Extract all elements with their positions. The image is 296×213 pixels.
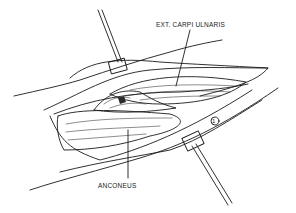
- limb-outline-upper2: [70, 60, 268, 78]
- retractor-bottom-handle: [192, 146, 228, 205]
- label-anconeus: ANCONEUS: [98, 182, 136, 189]
- label-ext-carpi-ulnaris: EXT. CARPI ULNARIS: [156, 21, 225, 28]
- leader-ecu: [176, 30, 190, 86]
- illustration-canvas: [0, 0, 296, 213]
- limb-outline-lower: [30, 88, 278, 190]
- anconeus-muscle: [57, 111, 180, 151]
- ecu-muscle: [110, 77, 246, 104]
- skin-edge-inner: [54, 84, 248, 114]
- label-marker-number: 1: [212, 118, 216, 124]
- retractor-top-handle: [98, 10, 118, 62]
